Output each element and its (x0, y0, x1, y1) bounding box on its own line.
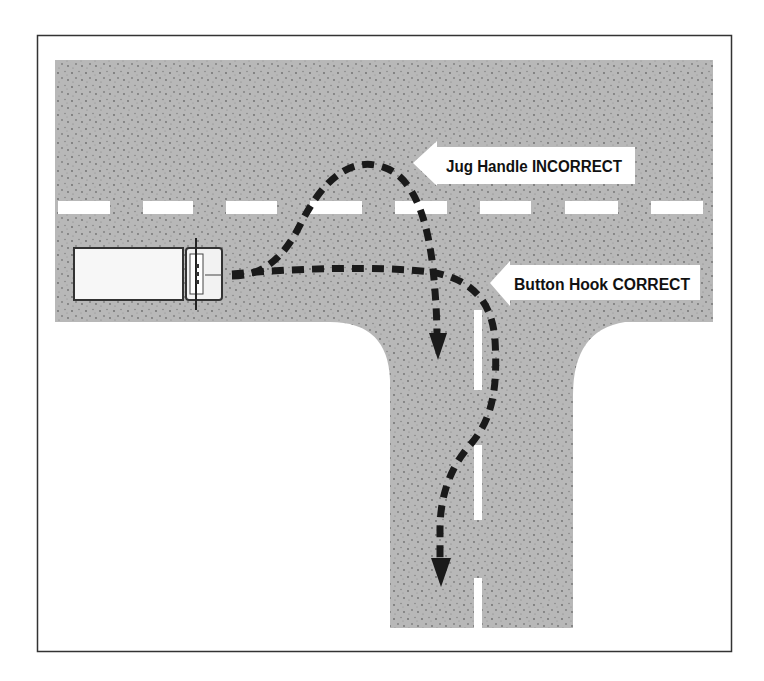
turn-diagram: Jug Handle INCORRECT Button Hook CORRECT (0, 0, 764, 681)
button-hook-sign: Button Hook CORRECT (490, 261, 700, 306)
truck-icon (74, 238, 222, 310)
button-hook-label: Button Hook CORRECT (514, 276, 690, 293)
jug-handle-label: Jug Handle INCORRECT (446, 158, 622, 175)
vertical-lane-markings (474, 310, 482, 628)
jug-handle-sign: Jug Handle INCORRECT (413, 141, 635, 186)
